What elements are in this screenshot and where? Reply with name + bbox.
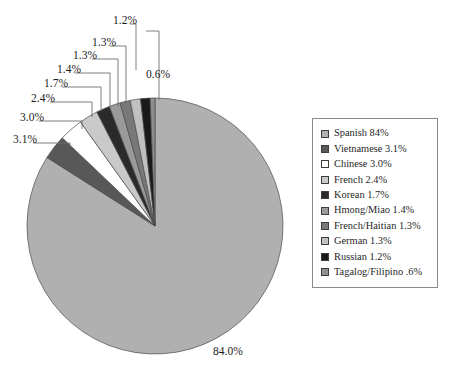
leader-line xyxy=(130,24,136,70)
legend-item[interactable]: French/Haitian 1.3% xyxy=(321,218,431,233)
legend-swatch-icon xyxy=(321,176,329,184)
legend-swatch-icon xyxy=(321,145,329,153)
legend-swatch-icon xyxy=(321,222,329,230)
legend-item[interactable]: Russian 1.2% xyxy=(321,249,431,264)
leader-line xyxy=(146,31,159,100)
legend-swatch-icon xyxy=(321,191,329,199)
legend-item-label: Chinese 3.0% xyxy=(334,159,392,169)
legend-item-label: Tagalog/Filipino .6% xyxy=(334,267,422,277)
slice-percentage-label: 84.0% xyxy=(213,345,243,357)
slice-percentage-label: 1.3% xyxy=(92,36,116,48)
legend-item[interactable]: French 2.4% xyxy=(321,172,431,187)
legend-item[interactable]: Hmong/Miao 1.4% xyxy=(321,203,431,218)
legend-item[interactable]: Chinese 3.0% xyxy=(321,157,431,172)
legend-swatch-icon xyxy=(321,253,329,261)
slice-percentage-label: 1.7% xyxy=(44,77,68,89)
legend-item-label: German 1.3% xyxy=(334,236,392,246)
legend-item-label: Russian 1.2% xyxy=(334,252,391,262)
chart-page: 1.2%1.3%1.3%1.4%1.7%2.4%3.0%3.1%0.6%84.0… xyxy=(0,0,450,373)
legend-item-label: Hmong/Miao 1.4% xyxy=(334,205,414,215)
legend-swatch-icon xyxy=(321,160,329,168)
chart-legend: Spanish 84%Vietnamese 3.1%Chinese 3.0%Fr… xyxy=(312,118,438,288)
leader-line xyxy=(75,73,110,108)
legend-swatch-icon xyxy=(321,130,329,138)
legend-swatch-icon xyxy=(321,237,329,245)
legend-item-label: Vietnamese 3.1% xyxy=(334,144,407,154)
legend-item-label: French/Haitian 1.3% xyxy=(334,221,421,231)
slice-percentage-label: 1.4% xyxy=(57,63,81,75)
slice-percentage-label: 1.3% xyxy=(73,49,97,61)
legend-item[interactable]: Tagalog/Filipino .6% xyxy=(321,265,431,280)
legend-item-label: Spanish 84% xyxy=(334,128,389,138)
legend-item-label: Korean 1.7% xyxy=(334,190,389,200)
slice-percentage-label: 0.6% xyxy=(146,68,170,80)
legend-item[interactable]: Spanish 84% xyxy=(321,126,431,141)
leader-line xyxy=(62,87,101,111)
slice-percentage-label: 3.0% xyxy=(20,111,44,123)
leader-line xyxy=(92,59,118,106)
slice-percentage-label: 2.4% xyxy=(31,92,55,104)
legend-swatch-icon xyxy=(321,207,329,215)
legend-item[interactable]: Korean 1.7% xyxy=(321,188,431,203)
slice-percentage-label: 1.2% xyxy=(113,14,137,26)
slice-percentage-label: 3.1% xyxy=(13,133,37,145)
legend-swatch-icon xyxy=(321,268,329,276)
legend-item[interactable]: German 1.3% xyxy=(321,234,431,249)
legend-item-label: French 2.4% xyxy=(334,175,387,185)
pie-slices xyxy=(27,98,283,354)
legend-item[interactable]: Vietnamese 3.1% xyxy=(321,141,431,156)
leader-line xyxy=(50,102,92,117)
